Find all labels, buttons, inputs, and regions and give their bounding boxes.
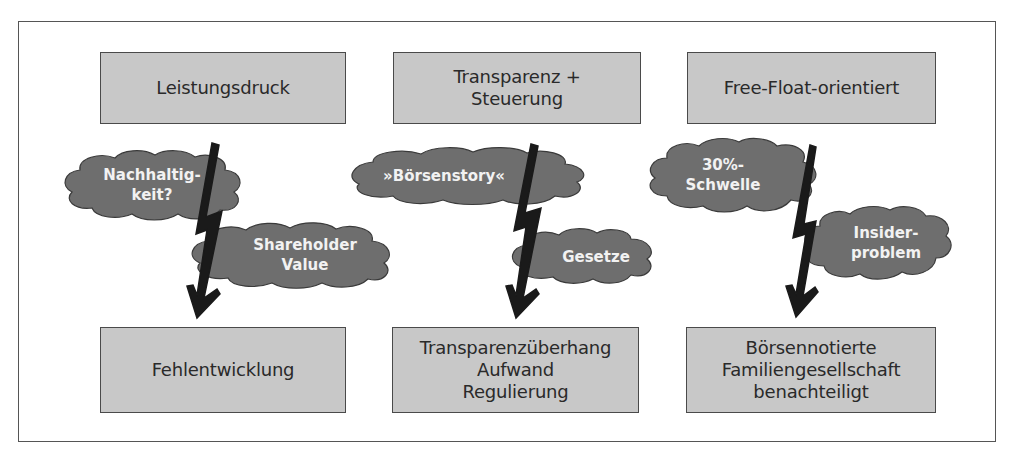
top-box-leistungsdruck: Leistungsdruck: [100, 52, 346, 124]
cloud-label: 30%- Schwelle: [645, 136, 817, 213]
cloud-label: Gesetze: [507, 227, 657, 286]
cloud-nachhaltigkeit: Nachhaltig- keit?: [60, 148, 244, 221]
bottom-box-familiengesellschaft: Börsennotierte Familiengesellschaft bena…: [686, 327, 936, 413]
cloud-30-prozent-schwelle: 30%- Schwelle: [645, 136, 817, 213]
bottom-box-transparenzueberhang: Transparenzüberhang Aufwand Regulierung: [392, 327, 639, 413]
bottom-box-fehlentwicklung: Fehlentwicklung: [100, 327, 346, 413]
cloud-label: Nachhaltig- keit?: [60, 148, 244, 221]
top-box-transparenz-steuerung: Transparenz + Steuerung: [393, 52, 641, 124]
cloud-shareholder-value: Shareholder Value: [186, 221, 394, 289]
cloud-label: Shareholder Value: [186, 221, 394, 289]
cloud-boersenstory: »Börsenstory«: [345, 146, 587, 206]
cloud-gesetze: Gesetze: [507, 227, 657, 286]
cloud-label: »Börsenstory«: [345, 146, 587, 206]
top-box-free-float: Free-Float-orientiert: [687, 52, 936, 124]
cloud-label: Insider- problem: [800, 204, 954, 281]
cloud-insiderproblem: Insider- problem: [800, 204, 954, 281]
